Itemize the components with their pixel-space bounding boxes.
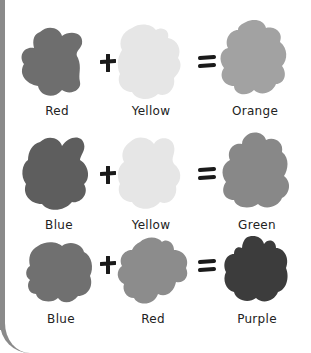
color-label: Purple [212,312,302,326]
color-label: Yellow [106,104,196,118]
plus-operator [100,54,116,76]
paint-blob-blue [20,132,94,214]
equals-operator [198,54,216,74]
color-label: Red [108,312,198,326]
paint-blob-orange [218,18,290,98]
equation-row-1: Red Yellow Orange [0,12,311,122]
color-label: Blue [14,218,104,232]
equation-row-2: Blue Yellow Green [0,122,311,232]
paint-blob-yellow [116,134,184,212]
color-label: Yellow [106,218,196,232]
color-label: Orange [210,104,300,118]
color-label: Blue [16,312,106,326]
plus-operator [100,166,116,188]
color-label: Red [12,104,102,118]
paint-blob-blue [24,240,96,304]
paint-blob-red [18,24,96,102]
plus-operator [100,256,116,278]
paint-blob-red [116,236,190,308]
paint-blob-yellow [116,22,186,104]
color-label: Green [212,218,302,232]
equation-row-3: Blue Red Purple [0,232,311,342]
paint-blob-purple [222,234,292,306]
equals-operator [198,258,216,278]
paint-blob-green [220,130,292,212]
equals-operator [198,166,216,186]
